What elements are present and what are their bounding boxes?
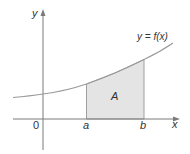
- x-axis-label: x: [171, 118, 178, 130]
- y-axis-arrow-icon: [41, 9, 46, 16]
- curve-label: y = f(x): [136, 31, 168, 42]
- y-axis-label: y: [31, 7, 39, 19]
- area-label: A: [110, 90, 118, 102]
- b-label: b: [140, 119, 146, 131]
- a-label: a: [83, 119, 89, 131]
- origin-label: 0: [33, 119, 39, 131]
- area-under-curve-diagram: y x 0 a b A y = f(x): [0, 0, 190, 154]
